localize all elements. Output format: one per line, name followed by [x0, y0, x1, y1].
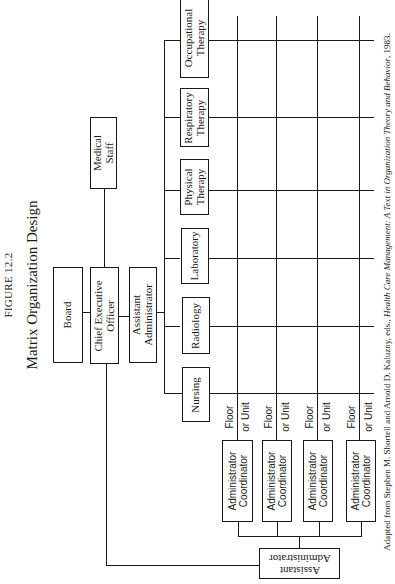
ceo-box: Chief ExecutiveOfficer: [90, 267, 119, 364]
coordinator-box-4: AdministratorCoordinator: [346, 440, 376, 522]
stub-nursing: [164, 393, 182, 394]
floor-label: Floor: [225, 406, 236, 429]
dept-physical-therapy: PhysicalTherapy: [180, 159, 209, 215]
stub-laboratory: [164, 258, 180, 259]
board-ceo-connector: [83, 312, 90, 313]
dept-label: Radiology: [190, 303, 202, 349]
source-note: Adapted from Stephen M. Shortell and Arn…: [383, 33, 392, 550]
matrix-row-radiology: [210, 326, 374, 327]
matrix-col-3: [317, 16, 318, 440]
unit-label-1: Floor: [224, 398, 236, 436]
stub-physical: [164, 190, 180, 191]
unit-label-2b: or Unit: [280, 398, 292, 436]
dept-label: Laboratory: [189, 232, 201, 281]
unit-label-4b: or Unit: [363, 398, 375, 436]
board-box: Board: [53, 267, 83, 363]
figure-title: Matrix Organization Design: [25, 201, 41, 370]
coordinator-box-2: AdministratorCoordinator: [262, 440, 292, 522]
figure-label: FIGURE 12.2: [3, 252, 15, 317]
coordinator-bus: [238, 536, 362, 537]
coord-stub-4: [361, 522, 362, 536]
matrix-row-laboratory: [209, 258, 374, 259]
coordinator-label: AdministratorCoordinator: [227, 452, 248, 511]
ceo-bottom-connector: [106, 364, 107, 566]
asst-admin-label: AssistantAdministrator: [131, 284, 154, 346]
coordinator-label: AdministratorCoordinator: [351, 452, 372, 511]
floor-label: Floor: [264, 406, 275, 429]
unit-label-1b: or Unit: [240, 398, 252, 436]
dept-label: RespiratoryTherapy: [183, 92, 206, 143]
dept-label: OccupationalTherapy: [183, 9, 206, 68]
figure-title-holder: Matrix Organization Design: [22, 200, 44, 370]
dept-nursing: Nursing: [182, 367, 210, 422]
dept-radiology: Radiology: [182, 297, 210, 354]
bottom-asst-admin-label: AssistantAdministrator: [269, 552, 331, 575]
coordinator-box-3: AdministratorCoordinator: [303, 440, 333, 522]
medical-staff-label: MedicalStaff: [92, 135, 115, 171]
dept-label: PhysicalTherapy: [183, 168, 206, 205]
figure-label-holder: FIGURE 12.2: [0, 240, 18, 330]
board-label: Board: [62, 302, 74, 329]
matrix-row-physical: [209, 190, 374, 191]
ceo-asst-connector: [119, 316, 129, 317]
matrix-col-4: [359, 16, 360, 440]
bottom-asst-admin-box: AssistantAdministrator: [259, 548, 340, 579]
ceo-label: Chief ExecutiveOfficer: [93, 280, 116, 351]
matrix-row-occupational: [209, 40, 374, 41]
dept-laboratory: Laboratory: [181, 228, 209, 284]
unit-label-4: Floor: [346, 398, 358, 436]
stub-respiratory: [164, 117, 180, 118]
or-unit-label: or Unit: [322, 402, 333, 431]
medical-staff-box: MedicalStaff: [90, 117, 117, 189]
unit-label-2: Floor: [263, 398, 275, 436]
coord-stub-3: [319, 522, 320, 536]
or-unit-label: or Unit: [364, 402, 375, 431]
dept-respiratory-therapy: RespiratoryTherapy: [180, 88, 209, 147]
unit-label-3b: or Unit: [321, 398, 333, 436]
source-note-holder: Adapted from Stephen M. Shortell and Arn…: [380, 0, 395, 584]
floor-label: Floor: [305, 406, 316, 429]
department-bus: [164, 40, 165, 394]
or-unit-label: or Unit: [241, 402, 252, 431]
unit-label-3: Floor: [304, 398, 316, 436]
coordinator-box-1: AdministratorCoordinator: [222, 440, 253, 522]
or-unit-label: or Unit: [281, 402, 292, 431]
floor-label: Floor: [347, 406, 358, 429]
matrix-col-2: [276, 16, 277, 440]
stub-occupational: [164, 40, 180, 41]
dept-label: Nursing: [190, 377, 202, 412]
dept-occupational-therapy: OccupationalTherapy: [180, 0, 209, 78]
stub-radiology: [164, 326, 180, 327]
matrix-row-respiratory: [209, 117, 374, 118]
ceo-medical-connector: [104, 189, 105, 267]
ceo-bottom-horizontal: [106, 565, 259, 566]
coordinator-label: AdministratorCoordinator: [267, 452, 288, 511]
coord-to-asst-stub: [299, 536, 300, 548]
coord-stub-2: [277, 522, 278, 536]
asst-admin-box: AssistantAdministrator: [129, 267, 157, 363]
coord-stub-1: [238, 522, 239, 536]
coordinator-label: AdministratorCoordinator: [308, 452, 329, 511]
matrix-row-nursing: [210, 393, 374, 394]
matrix-col-1: [237, 16, 238, 440]
